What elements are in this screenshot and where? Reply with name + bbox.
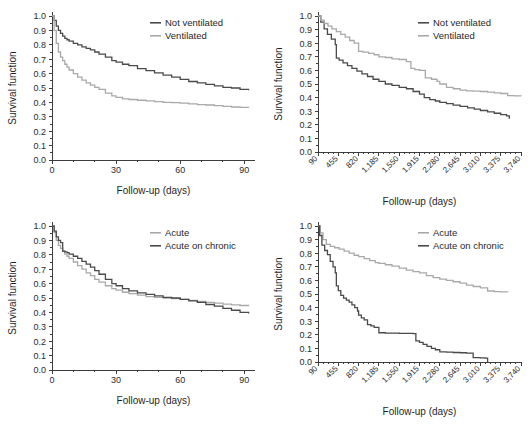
x-tick-label: 90 (239, 165, 249, 175)
x-tick-label: 60 (175, 375, 185, 385)
y-tick-label: 0.2 (33, 337, 46, 347)
y-tick-label: 0.1 (33, 351, 46, 361)
y-axis-title: Survival function (273, 47, 284, 120)
survival-curve-ventilated (52, 16, 249, 108)
y-tick-label: 0.9 (33, 26, 46, 36)
y-axis-title: Survival function (273, 257, 284, 330)
y-axis-title: Survival function (7, 51, 18, 124)
y-tick-label: 0.5 (299, 289, 312, 299)
chart-panel-bottom-right: 0.00.10.20.30.40.50.60.70.80.91.09045582… (266, 210, 531, 423)
legend-label: Ventilated (433, 30, 475, 41)
x-tick-label: 3,010 (461, 364, 482, 385)
chart-svg-top-left: 0.00.10.20.30.40.50.60.70.80.91.00306090… (0, 0, 265, 213)
legend-label: Acute (433, 227, 457, 238)
y-tick-label: 0.8 (299, 39, 312, 49)
y-tick-label: 0.4 (299, 303, 312, 313)
survival-curves-figure: 0.00.10.20.30.40.50.60.70.80.91.00306090… (0, 0, 531, 427)
legend-label: Acute on chronic (433, 240, 504, 251)
x-tick-label: 820 (344, 364, 360, 380)
x-tick-label: 1,185 (360, 154, 381, 175)
x-tick-label: 2,280 (421, 154, 442, 175)
survival-curve-acute (318, 226, 508, 292)
y-tick-label: 0.8 (33, 250, 46, 260)
y-tick-label: 0.7 (299, 52, 312, 62)
survival-curve-not-ventilated (318, 16, 509, 119)
y-tick-label: 1.0 (33, 221, 46, 231)
x-tick-label: 455 (324, 364, 340, 380)
legend-label: Ventilated (165, 30, 207, 41)
x-tick-label: 90 (239, 375, 249, 385)
y-tick-label: 0.6 (33, 279, 46, 289)
x-tick-label: 3,740 (502, 364, 523, 385)
y-tick-label: 0.1 (299, 344, 312, 354)
y-tick-label: 0.0 (33, 365, 46, 375)
y-tick-label: 1.0 (33, 11, 46, 21)
y-tick-label: 0.4 (299, 93, 312, 103)
x-tick-label: 3,010 (461, 154, 482, 175)
x-axis-title: Follow-up (days) (117, 395, 191, 406)
y-tick-label: 0.9 (299, 235, 312, 245)
legend-label: Acute on chronic (165, 240, 236, 251)
x-tick-label: 1,185 (360, 364, 381, 385)
y-tick-label: 0.9 (33, 236, 46, 246)
y-tick-label: 0.1 (33, 141, 46, 151)
x-axis-title: Follow-up (days) (117, 185, 191, 196)
y-tick-label: 1.0 (299, 221, 312, 231)
y-tick-label: 0.9 (299, 25, 312, 35)
x-tick-label: 455 (324, 154, 340, 170)
x-axis-title: Follow-up (days) (383, 406, 457, 417)
x-tick-label: 2,645 (441, 154, 462, 175)
chart-panel-top-right: 0.00.10.20.30.40.50.60.70.80.91.09045582… (266, 0, 531, 213)
x-tick-label: 3,375 (482, 154, 503, 175)
y-tick-label: 0.6 (299, 66, 312, 76)
survival-curve-ventilated (318, 16, 521, 96)
chart-svg-bottom-right: 0.00.10.20.30.40.50.60.70.80.91.09045582… (266, 210, 531, 423)
x-axis-title: Follow-up (days) (383, 196, 457, 207)
x-tick-label: 30 (111, 375, 121, 385)
x-tick-label: 1,915 (400, 154, 421, 175)
y-tick-label: 0.0 (33, 155, 46, 165)
x-tick-label: 60 (175, 165, 185, 175)
chart-svg-bottom-left: 0.00.10.20.30.40.50.60.70.80.91.00306090… (0, 210, 265, 423)
y-tick-label: 0.3 (299, 317, 312, 327)
chart-svg-top-right: 0.00.10.20.30.40.50.60.70.80.91.09045582… (266, 0, 531, 213)
y-tick-label: 0.6 (33, 69, 46, 79)
y-tick-label: 0.5 (33, 83, 46, 93)
x-tick-label: 30 (111, 165, 121, 175)
x-tick-label: 1,550 (380, 364, 401, 385)
chart-panel-top-left: 0.00.10.20.30.40.50.60.70.80.91.00306090… (0, 0, 265, 213)
y-tick-label: 0.3 (33, 112, 46, 122)
y-tick-label: 0.8 (299, 249, 312, 259)
y-tick-label: 0.2 (299, 330, 312, 340)
x-tick-label: 1,550 (380, 154, 401, 175)
y-tick-label: 0.3 (299, 107, 312, 117)
x-tick-label: 3,740 (502, 154, 523, 175)
y-tick-label: 0.7 (299, 262, 312, 272)
y-tick-label: 0.5 (299, 79, 312, 89)
x-tick-label: 3,375 (482, 364, 503, 385)
chart-panel-bottom-left: 0.00.10.20.30.40.50.60.70.80.91.00306090… (0, 210, 265, 423)
x-tick-label: 0 (49, 375, 54, 385)
y-tick-label: 0.3 (33, 322, 46, 332)
x-tick-label: 2,280 (421, 364, 442, 385)
x-tick-label: 1,915 (400, 364, 421, 385)
axis-lines (52, 12, 255, 160)
x-tick-label: 2,645 (441, 364, 462, 385)
y-axis-title: Survival function (7, 261, 18, 334)
legend-label: Not ventilated (433, 17, 491, 28)
legend-label: Not ventilated (165, 17, 223, 28)
y-tick-label: 0.6 (299, 276, 312, 286)
x-tick-label: 0 (49, 165, 54, 175)
y-tick-label: 0.1 (299, 134, 312, 144)
y-tick-label: 0.4 (33, 98, 46, 108)
y-tick-label: 0.7 (33, 265, 46, 275)
y-tick-label: 0.4 (33, 308, 46, 318)
legend-label: Acute (165, 227, 189, 238)
y-tick-label: 1.0 (299, 11, 312, 21)
y-tick-label: 0.8 (33, 40, 46, 50)
y-tick-label: 0.5 (33, 293, 46, 303)
y-tick-label: 0.7 (33, 55, 46, 65)
x-tick-label: 820 (344, 154, 360, 170)
axis-lines (318, 12, 521, 152)
y-tick-label: 0.2 (33, 127, 46, 137)
